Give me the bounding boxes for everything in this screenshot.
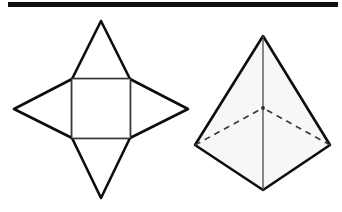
pyramid-net-figure xyxy=(14,21,188,198)
net-right-triangle xyxy=(130,79,188,138)
geometry-figure-svg xyxy=(0,0,342,212)
net-bottom-triangle xyxy=(72,138,130,198)
figure-page xyxy=(0,0,342,212)
net-top-triangle xyxy=(72,21,130,79)
solid-back-vertex-dot xyxy=(261,106,265,110)
net-square-base xyxy=(72,79,130,138)
pyramid-solid-figure xyxy=(195,36,330,190)
net-left-triangle xyxy=(14,79,72,138)
top-horizontal-rule xyxy=(8,2,338,7)
